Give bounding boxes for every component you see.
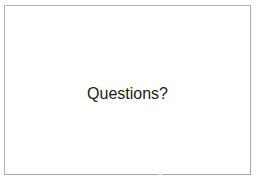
presentation-slide[interactable]: Questions? [4, 5, 251, 175]
image-artifact-speck [159, 172, 162, 175]
slide-canvas: Questions? [0, 0, 259, 184]
slide-content-area: Questions? [5, 6, 250, 174]
slide-title-text: Questions? [5, 84, 250, 104]
